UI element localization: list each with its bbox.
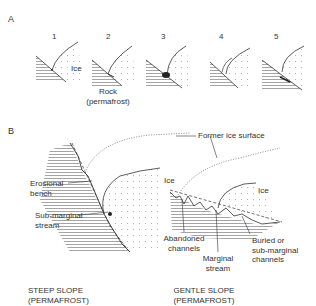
- gentle-caption-line2: (PERMAFROST): [166, 296, 242, 306]
- rock-label: Rock (permafrost): [84, 87, 132, 106]
- gentle-ice-label: Ice: [258, 186, 269, 196]
- steep-caption-line2: (PERMAFROST): [28, 296, 89, 306]
- erosional-bench-line2: bench: [30, 189, 63, 199]
- buried-line1: Buried or: [252, 236, 298, 246]
- section-b-label: B: [8, 126, 14, 136]
- abandoned-line2: channels: [158, 244, 210, 254]
- panel-3: [146, 46, 192, 88]
- buried-channels-label: Buried or sub-marginal channels: [252, 236, 298, 265]
- panel-2: [92, 46, 136, 86]
- gentle-slope-caption: GENTLE SLOPE (PERMAFROST): [166, 286, 242, 305]
- former-ice-surface-label: Former ice surface: [198, 131, 265, 141]
- rock-label-line1: Rock: [84, 87, 132, 97]
- marginal-line2: stream: [198, 264, 238, 274]
- buried-line2: sub-marginal: [252, 246, 298, 256]
- panel-1-number: 1: [52, 32, 56, 41]
- erosional-bench-line1: Erosional: [30, 179, 63, 189]
- submarginal-line1: Sub-marginal: [35, 211, 83, 221]
- buried-line3: channels: [252, 255, 298, 265]
- panel-3-number: 3: [161, 32, 165, 41]
- submarginal-stream-label: Sub-marginal stream: [35, 211, 83, 230]
- panel-4-number: 4: [219, 32, 223, 41]
- abandoned-channels-label: Abandoned channels: [158, 234, 210, 253]
- rock-label-line2: (permafrost): [84, 97, 132, 107]
- erosional-bench-label: Erosional bench: [30, 179, 63, 198]
- panel-5-number: 5: [274, 32, 278, 41]
- steep-caption-line1: STEEP SLOPE: [28, 286, 89, 296]
- steep-slope-caption: STEEP SLOPE (PERMAFROST): [28, 286, 89, 305]
- steep-ice-label: Ice: [164, 176, 175, 186]
- panel-4: [210, 48, 252, 88]
- section-a-label: A: [8, 14, 14, 24]
- ice-label-a: Ice: [71, 64, 82, 74]
- marginal-line1: Marginal: [198, 254, 238, 264]
- gentle-caption-line1: GENTLE SLOPE: [166, 286, 242, 296]
- panel-2-number: 2: [106, 32, 110, 41]
- submarginal-line2: stream: [35, 221, 83, 231]
- panel-5: [262, 46, 306, 90]
- panel-1: [36, 42, 82, 82]
- abandoned-line1: Abandoned: [158, 234, 210, 244]
- marginal-stream-label: Marginal stream: [198, 254, 238, 273]
